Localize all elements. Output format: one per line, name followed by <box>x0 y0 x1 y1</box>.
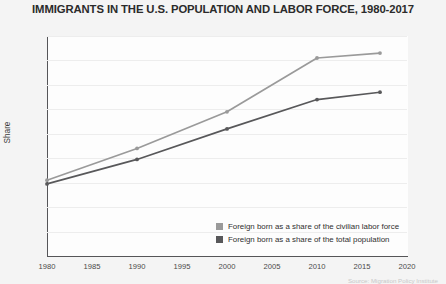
x-tick-label: 1980 <box>24 262 70 271</box>
legend: Foreign born as a share of the civilian … <box>216 220 446 246</box>
data-point-marker <box>378 90 382 94</box>
y-axis-title: Share <box>3 113 12 153</box>
legend-item-total-population: Foreign born as a share of the total pop… <box>216 233 446 246</box>
legend-label-total-population: Foreign born as a share of the total pop… <box>228 235 389 244</box>
x-tick-label: 2010 <box>294 262 340 271</box>
x-tick-label: 1985 <box>69 262 115 271</box>
x-tick-label: 2020 <box>384 262 430 271</box>
legend-swatch-labor-force <box>216 223 223 230</box>
data-point-marker <box>135 147 139 151</box>
data-point-marker <box>225 110 229 114</box>
x-tick-label: 2015 <box>339 262 385 271</box>
series-line <box>47 92 380 184</box>
data-point-marker <box>45 178 49 182</box>
x-tick-label: 1990 <box>114 262 160 271</box>
data-point-marker <box>378 51 382 55</box>
data-point-marker <box>225 127 229 131</box>
x-tick-label: 1995 <box>159 262 205 271</box>
legend-item-labor-force: Foreign born as a share of the civilian … <box>216 220 446 233</box>
legend-swatch-total-population <box>216 236 223 243</box>
x-tick-label: 2000 <box>204 262 250 271</box>
data-point-marker <box>315 98 319 102</box>
source-note: Source: Migration Policy Institute <box>348 277 438 284</box>
page-title: IMMIGRANTS IN THE U.S. POPULATION AND LA… <box>0 3 446 15</box>
data-point-marker <box>45 182 49 186</box>
legend-label-labor-force: Foreign born as a share of the civilian … <box>228 222 399 231</box>
chart-page: IMMIGRANTS IN THE U.S. POPULATION AND LA… <box>0 0 446 284</box>
data-point-marker <box>135 158 139 162</box>
series-line <box>47 53 380 180</box>
x-tick-label: 2005 <box>249 262 295 271</box>
data-point-marker <box>315 56 319 60</box>
